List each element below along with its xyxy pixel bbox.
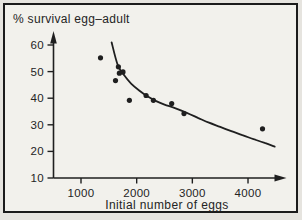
data-point [113, 78, 118, 83]
y-tick-label: 60 [31, 39, 44, 51]
y-tick-label: 10 [31, 172, 44, 184]
x-tick-label: 2000 [123, 187, 150, 199]
y-tick-label: 50 [31, 66, 44, 78]
plot-canvas: 1020304050601000200030004000 [0, 0, 302, 220]
y-tick-label: 20 [31, 145, 44, 157]
data-point [120, 69, 125, 74]
figure: 1020304050601000200030004000 % survival … [0, 0, 302, 220]
x-axis-label: Initial number of eggs [54, 198, 280, 212]
data-point [169, 101, 174, 106]
x-tick-label: 3000 [179, 187, 206, 199]
data-point [116, 64, 121, 69]
y-tick-label: 30 [31, 119, 44, 131]
data-point [151, 98, 156, 103]
x-tick-label: 4000 [235, 187, 262, 199]
data-point [260, 126, 265, 131]
y-tick-label: 40 [31, 92, 44, 104]
chart-title: % survival egg–adult [13, 12, 130, 26]
data-point [127, 98, 132, 103]
y-axis-arrow-icon [50, 31, 57, 44]
data-point [98, 55, 103, 60]
data-point [181, 111, 186, 116]
x-axis-arrow-icon [275, 175, 287, 182]
fitted-curve [112, 42, 275, 146]
data-point [144, 93, 149, 98]
x-tick-label: 1000 [68, 187, 95, 199]
